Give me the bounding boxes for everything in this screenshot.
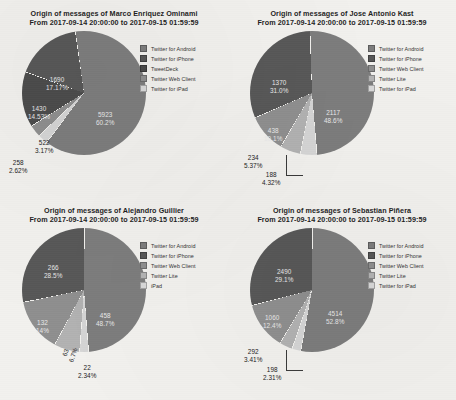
legend-swatch-icon [368,65,375,72]
page-title: Origin of messages of Jose Antonio Kast [228,9,456,18]
legend-item-label: Twitter for Android [151,243,195,249]
legend-item-label: Twitter for Android [151,46,195,52]
chart-legend: Twitter for Android Twitter for iPhone T… [140,242,224,292]
legend-item-iphone[interactable]: Twitter for iPhone [140,55,224,62]
legend-item-android[interactable]: Twitter for Android [140,45,224,52]
chart-legend: Twitter for Android Twitter for iPhone T… [368,45,452,95]
legend-item-ipad[interactable]: Twitter for iPad [368,282,452,289]
legend-item-android[interactable]: Twitter for Android [368,242,452,249]
slice-label-ipad: 258 2.62% [9,159,27,175]
plot-area: 4514 52.8% 2490 29.1% 1060 12.4% 292 3.4… [228,224,456,384]
plot-area: 458 48.7% 266 28.5% 132 14% 63 6.7% 22 2… [0,224,228,384]
legend-item-label: Twitter for Android [379,243,423,249]
legend-swatch-icon [140,65,147,72]
legend-swatch-icon [368,55,375,62]
chart-panel-jose-antonio-kast: Origin of messages of Jose Antonio Kast … [228,0,456,197]
slice-label-iphone: 266 28.5% [44,264,62,280]
chart-title-block: Origin of messages of Sebastian Piñera F… [228,197,456,224]
legend-item-lite[interactable]: Twitter Lite [368,75,452,82]
legend-item-lite[interactable]: Twitter Lite [368,272,452,279]
slice-label-web-client: 1060 12.4% [263,314,281,330]
slice-label-web-client: 132 14% [36,319,49,335]
legend-swatch-icon [368,85,375,92]
slice-label-web-client: 522 3.17% [35,139,53,155]
legend-item-label: Twitter Web Client [379,66,424,72]
chart-subtitle: From 2017-09-14 20:00:00 to 2017-09-15 0… [0,18,228,27]
chart-panel-marco-enriquez-ominami: Origin of messages of Marco Enriquez Omi… [0,0,228,197]
legend-item-label: Twitter Lite [379,273,406,279]
legend-item-label: TweetDeck [151,66,178,72]
legend-swatch-icon [140,55,147,62]
label-leader-line [286,350,303,371]
label-leader-line [286,155,303,176]
legend-item-label: Twitter for iPad [379,283,416,289]
legend-item-label: iPad [151,283,162,289]
legend-swatch-icon [140,242,147,249]
plot-area: 2117 48.6% 1370 31.0% 438 10.1% 234 5.37… [228,27,456,187]
slice-label-android: 458 48.7% [96,312,114,328]
legend-swatch-icon [368,252,375,259]
legend-item-label: Twitter for iPhone [151,56,194,62]
legend-item-label: Twitter for Android [379,46,423,52]
legend-item-lite[interactable]: Twitter Lite [140,272,224,279]
chart-subtitle: From 2017-09-14 20:00:00 to 2017-09-15 0… [228,215,456,224]
chart-panel-sebastian-pinera: Origin of messages of Sebastian Piñera F… [228,197,456,400]
slice-label-web-client: 438 10.1% [264,127,282,143]
legend-item-label: Twitter Lite [151,273,178,279]
legend-item-label: Twitter for iPhone [379,253,422,259]
legend-swatch-icon [140,85,147,92]
legend-swatch-icon [368,272,375,279]
page-title: Origin of messages of Alejandro Guillier [0,206,228,215]
legend-item-ipad[interactable]: iPad [140,282,224,289]
slice-label-ipad: 22 2.34% [78,364,96,380]
slice-label-ipad: 198 2.31% [263,366,281,382]
slice-label-android: 5923 60.2% [96,111,114,127]
chart-subtitle: From 2017-09-14 20:00:00 to 2017-09-15 0… [0,215,228,224]
legend-swatch-icon [140,262,147,269]
legend-item-web-client[interactable]: Twitter Web Client [140,75,224,82]
pie-chart [22,31,146,155]
slice-label-iphone: 1690 17.17% [46,76,68,92]
pie-chart [250,228,374,352]
chart-legend: Twitter for Android Twitter for iPhone T… [140,45,224,95]
legend-item-label: Twitter for iPad [151,86,188,92]
legend-item-ipad[interactable]: Twitter for iPad [368,85,452,92]
legend-swatch-icon [140,252,147,259]
pie-slices [250,228,374,352]
slice-label-android: 4514 52.8% [326,310,344,326]
slice-label-tweetdeck: 1430 14.53% [28,105,50,121]
legend-item-android[interactable]: Twitter for Android [368,45,452,52]
legend-item-label: Twitter for iPhone [379,56,422,62]
slice-label-ipad: 188 4.32% [262,171,280,187]
legend-item-iphone[interactable]: Twitter for iPhone [368,252,452,259]
legend-item-label: Twitter Web Client [379,263,424,269]
legend-item-web-client[interactable]: Twitter Web Client [368,262,452,269]
legend-item-tweetdeck[interactable]: TweetDeck [140,65,224,72]
legend-item-label: Twitter for iPhone [151,253,194,259]
legend-swatch-icon [368,75,375,82]
legend-item-web-client[interactable]: Twitter Web Client [140,262,224,269]
page-title: Origin of messages of Marco Enriquez Omi… [0,9,228,18]
plot-area: 5923 60.2% 1690 17.17% 1430 14.53% 522 3… [0,27,228,187]
legend-swatch-icon [140,272,147,279]
legend-item-label: Twitter Lite [379,76,406,82]
legend-swatch-icon [368,242,375,249]
slice-label-iphone: 1370 31.0% [270,79,288,95]
legend-item-web-client[interactable]: Twitter Web Client [368,65,452,72]
legend-item-iphone[interactable]: Twitter for iPhone [368,55,452,62]
legend-item-label: Twitter Web Client [151,76,196,82]
slice-label-lite: 234 5.37% [244,154,262,170]
legend-swatch-icon [140,75,147,82]
slice-label-lite: 292 3.41% [244,348,262,364]
chart-title-block: Origin of messages of Marco Enriquez Omi… [0,0,228,27]
legend-item-ipad[interactable]: Twitter for iPad [140,85,224,92]
legend-swatch-icon [140,45,147,52]
legend-item-iphone[interactable]: Twitter for iPhone [140,252,224,259]
page-title: Origin of messages of Sebastian Piñera [228,206,456,215]
chart-legend: Twitter for Android Twitter for iPhone T… [368,242,452,292]
legend-swatch-icon [368,45,375,52]
legend-swatch-icon [368,262,375,269]
legend-item-android[interactable]: Twitter for Android [140,242,224,249]
legend-item-label: Twitter Web Client [151,263,196,269]
pie-chart-grid: Origin of messages of Marco Enriquez Omi… [0,0,456,400]
